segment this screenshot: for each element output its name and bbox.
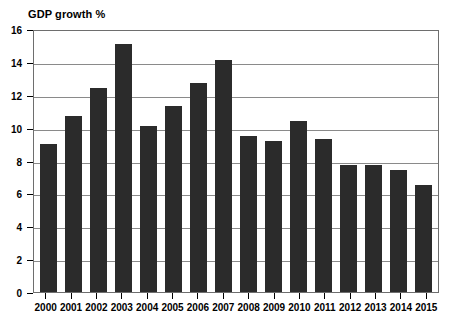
x-axis-tick: 2006 [185,293,211,313]
bar [340,165,357,292]
bar [190,83,207,292]
plot-area [33,30,439,293]
x-axis-tick-mark [96,293,97,299]
y-axis-tick-label: 0 [16,288,22,299]
x-axis-tick-label: 2001 [58,302,84,313]
bar [65,116,82,292]
x-axis-tick: 2005 [160,293,186,313]
x-axis-tick: 2013 [363,293,389,313]
x-axis-tick-label: 2013 [363,302,389,313]
x-axis-tick: 2012 [337,293,363,313]
y-axis-tick-label: 4 [16,222,22,233]
x-axis-tick-mark [375,293,376,299]
x-axis: 2000200120022003200420052006200720082009… [33,293,439,328]
x-axis-tick-label: 2007 [210,302,236,313]
x-axis-tick-label: 2002 [83,302,109,313]
x-axis-tick-label: 2003 [109,302,135,313]
x-axis-tick: 2011 [312,293,338,313]
bar [215,60,232,292]
x-axis-tick-mark [121,293,122,299]
y-axis-tick-label: 16 [11,25,22,36]
x-axis-tick-label: 2009 [261,302,287,313]
bar [265,141,282,292]
bar [165,106,182,292]
x-axis-tick-mark [324,293,325,299]
x-axis-tick: 2007 [210,293,236,313]
x-axis-tick-mark [45,293,46,299]
y-axis-tick-label: 2 [16,255,22,266]
x-axis-tick-label: 2006 [185,302,211,313]
bars-container [34,31,438,292]
bar [240,136,257,292]
bar [40,144,57,292]
bar [365,165,382,292]
x-axis-tick: 2009 [261,293,287,313]
bar [140,126,157,292]
y-axis-tick-label: 6 [16,189,22,200]
y-axis-tick-label: 8 [16,156,22,167]
x-axis-tick-mark [172,293,173,299]
x-axis-tick-label: 2005 [160,302,186,313]
bar [90,88,107,292]
x-axis-tick: 2015 [413,293,439,313]
x-axis-tick-label: 2012 [337,302,363,313]
y-axis-tick-label: 10 [11,123,22,134]
x-axis-tick-mark [223,293,224,299]
x-axis-tick-mark [350,293,351,299]
x-axis-tick-label: 2011 [312,302,338,313]
x-axis-tick-mark [299,293,300,299]
x-axis-tick: 2003 [109,293,135,313]
x-axis-tick-label: 2004 [134,302,160,313]
x-axis-tick: 2002 [83,293,109,313]
x-axis-tick-label: 2008 [236,302,262,313]
x-axis-tick-mark [71,293,72,299]
x-axis-tick: 2014 [388,293,414,313]
x-axis-tick-mark [426,293,427,299]
x-axis-tick: 2008 [236,293,262,313]
x-axis-tick: 2000 [33,293,59,313]
gdp-growth-bar-chart: GDP growth % 0246810121416 2000200120022… [0,0,450,328]
y-axis: 0246810121416 [0,0,33,328]
x-axis-tick: 2010 [286,293,312,313]
bar [315,139,332,292]
x-axis-tick-label: 2014 [388,302,414,313]
x-axis-tick-mark [400,293,401,299]
x-axis-tick-mark [147,293,148,299]
x-axis-tick-label: 2010 [286,302,312,313]
y-axis-tick-label: 12 [11,90,22,101]
chart-title: GDP growth % [28,8,105,20]
x-axis-tick: 2001 [58,293,84,313]
bar [115,44,132,292]
x-axis-tick-mark [274,293,275,299]
x-axis-tick-label: 2000 [33,302,59,313]
x-axis-tick: 2004 [134,293,160,313]
y-axis-tick-label: 14 [11,57,22,68]
bar [390,170,407,292]
x-axis-tick-label: 2015 [413,302,439,313]
x-axis-tick-mark [248,293,249,299]
bar [415,185,432,292]
x-axis-tick-mark [197,293,198,299]
bar [290,121,307,292]
